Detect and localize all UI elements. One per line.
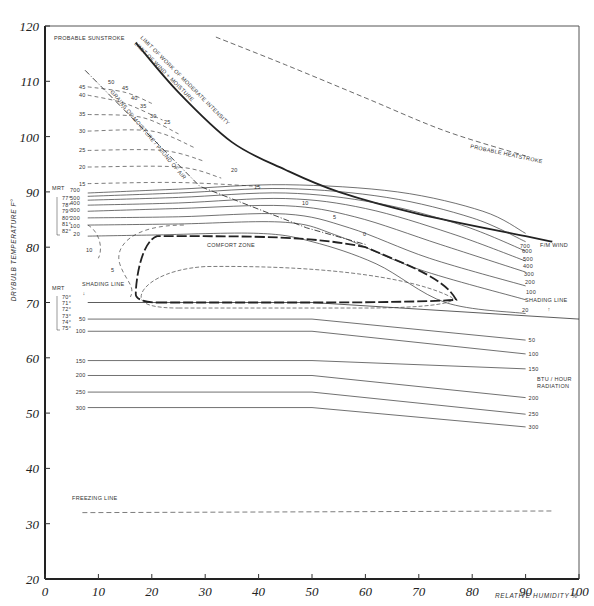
- radiation-label-right: 150: [529, 366, 539, 372]
- x-tick-label: 70: [412, 584, 426, 599]
- radiation-label-left: 50: [79, 316, 86, 322]
- mrt-upper-label: 79°: [62, 208, 71, 214]
- x-tick-label: 30: [198, 584, 213, 599]
- freezing-line: [82, 511, 552, 513]
- radiation-label-left: 250: [76, 389, 86, 395]
- y-tick-label: 120: [20, 19, 40, 34]
- shading-arrow-left: ↓: [82, 290, 85, 296]
- grains-diag-label: 10: [302, 200, 309, 206]
- radiation-label-left: 200: [76, 372, 86, 378]
- grains-curve-label: 15: [79, 181, 86, 187]
- grains-curve-label: 20: [79, 164, 86, 170]
- wind-label-right: 20: [522, 307, 529, 313]
- grains-diag-label: 15: [254, 184, 261, 190]
- radiation-label-left: 150: [76, 358, 86, 364]
- x-tick-label: 80: [466, 584, 480, 599]
- y-tick-label: 30: [25, 517, 40, 532]
- radiation-line-150: [88, 361, 526, 369]
- radiation-label-left: 300: [76, 405, 86, 411]
- radiation-line-100: [88, 331, 526, 354]
- grains-curve-label: 30: [79, 128, 86, 134]
- wind-label-left: 200: [70, 215, 80, 221]
- mrt-upper-label: 81°: [62, 221, 71, 227]
- y-tick-label: 110: [20, 74, 39, 89]
- grains-curve: [88, 166, 222, 178]
- radiation-line-250: [88, 392, 526, 414]
- y-tick-label: 80: [26, 240, 40, 255]
- bioclimatic-chart: 2030405060708090100110120010203040506070…: [0, 0, 594, 606]
- y-tick-label: 50: [26, 406, 40, 421]
- x-tick-label: 10: [92, 584, 106, 599]
- x-tick-label: 60: [359, 584, 373, 599]
- wind-label-right: 200: [525, 279, 535, 285]
- shading-line-right: [312, 303, 579, 320]
- mrt-lower-label: 74°: [62, 319, 71, 325]
- grains-curve: [88, 182, 259, 186]
- grains-curve: [88, 150, 205, 162]
- grains-10-label: 10: [86, 247, 93, 253]
- wind-curve-20: [88, 233, 526, 313]
- grains-diag-label: 5: [333, 214, 336, 220]
- heatstroke-label: PROBABLE HEATSTROKE: [470, 143, 543, 164]
- y-tick-label: 60: [26, 351, 40, 366]
- wind-unit: F/M WIND: [540, 242, 568, 248]
- grains-diag-label: 25: [164, 119, 171, 125]
- radiation-unit-2: RADIATION: [537, 383, 569, 389]
- limit-wind-label: LIMIT OF WIND + MOISTURE: [133, 40, 195, 102]
- grains-10-loop: [88, 225, 101, 258]
- radiation-label-right: 200: [529, 395, 539, 401]
- radiation-label-right: 100: [529, 351, 539, 357]
- mrt-lower-bracket: [57, 296, 60, 330]
- wind-curve-400: [88, 198, 526, 261]
- grains-diag-label: 30: [150, 113, 157, 119]
- y-tick-label: 20: [26, 572, 40, 587]
- radiation-line-300: [88, 408, 526, 427]
- grains-curve-label: 45: [79, 84, 86, 90]
- grains-diag-label: 35: [140, 103, 147, 109]
- grains-curve-label: 35: [79, 111, 86, 117]
- grains-curve-label: 40: [79, 92, 86, 98]
- freezing-label: FREEZING LINE: [72, 495, 117, 501]
- grains-label: GRAINS OF MOISTURE / POUND OF AIR: [109, 89, 187, 181]
- radiation-label-right: 300: [529, 424, 539, 430]
- grains-diagonal: [85, 70, 365, 244]
- mrt-upper-label: 77°: [62, 195, 71, 201]
- mrt-lower-title: MRT: [52, 285, 65, 291]
- mrt-lower-label: 75°: [62, 325, 71, 331]
- wind-label-right: 300: [524, 271, 534, 277]
- limit-work-curve: [136, 43, 553, 242]
- grains-curve-label: 25: [79, 147, 86, 153]
- radiation-line-50: [88, 319, 526, 340]
- shading-label-right: SHADING LINE: [525, 297, 567, 303]
- x-tick-label: 50: [306, 584, 320, 599]
- mrt-lower-label: 71°: [62, 300, 71, 306]
- shading-label-left: SHADING LINE: [82, 281, 124, 287]
- sunstroke-label: PROBABLE SUNSTROKE: [54, 35, 125, 41]
- wind-curve-100: [88, 222, 526, 300]
- grains-diag-label: 50: [108, 79, 115, 85]
- grains-diag-label: 0: [363, 231, 366, 237]
- wind-label-left: 20: [73, 231, 80, 237]
- y-tick-label: 40: [26, 461, 40, 476]
- wind-curve-600: [88, 188, 526, 241]
- comfort-zone-label: COMFORT ZONE: [207, 242, 255, 248]
- mrt-lower-label: 73°: [62, 313, 71, 319]
- radiation-label-left: 100: [76, 328, 86, 334]
- wind-label-left: 300: [70, 207, 80, 213]
- grains-curve: [88, 130, 195, 148]
- grains-diag-label: 45: [122, 85, 129, 91]
- wind-label-left: 700: [70, 187, 80, 193]
- grains-5-label: 5: [111, 267, 114, 273]
- mrt-upper-label: 78°: [62, 202, 71, 208]
- x-axis-title: RELATIVE HUMIDITY %: [495, 592, 578, 599]
- y-tick-label: 90: [26, 185, 40, 200]
- radiation-label-right: 250: [529, 411, 539, 417]
- wind-label-right: 500: [523, 256, 533, 262]
- grains-diag-label: 40: [131, 95, 138, 101]
- mrt-upper-bracket: [57, 197, 60, 235]
- mrt-upper-label: 82°: [62, 228, 71, 234]
- wind-label-right: 400: [523, 263, 533, 269]
- mrt-upper-label: 80°: [62, 215, 71, 221]
- x-tick-label: 0: [42, 584, 49, 599]
- y-axis-title: DRYBULB TEMPERATURE F°: [10, 199, 17, 301]
